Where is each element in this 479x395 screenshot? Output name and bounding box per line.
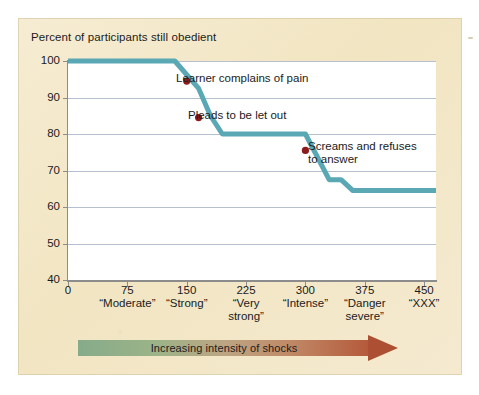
plot-area	[68, 61, 436, 280]
chart-figure: Percent of participants still obedient 4…	[0, 0, 479, 395]
y-tick-mark	[63, 280, 68, 281]
arrow-label: Increasing intensity of shocks	[78, 340, 370, 356]
y-tick-label: 100	[32, 54, 60, 66]
stray-mark	[468, 37, 473, 39]
annotation-label: Learner complains of pain	[176, 72, 308, 85]
y-tick-label: 70	[32, 164, 60, 176]
annotation-label: Pleads to be let out	[188, 109, 286, 122]
x-axis-line	[67, 280, 437, 282]
y-tick-label: 80	[32, 127, 60, 139]
x-tick-group: 450“XXX”	[376, 284, 472, 310]
annotation-label: Screams and refuses to answer	[308, 140, 417, 166]
intensity-arrow: Increasing intensity of shocks	[78, 335, 418, 361]
arrow-head-icon	[368, 335, 398, 361]
x-tick-value: 450	[376, 284, 472, 297]
x-tick-name: “XXX”	[376, 297, 472, 310]
y-tick-label: 90	[32, 91, 60, 103]
y-tick-label: 50	[32, 237, 60, 249]
chart-title: Percent of participants still obedient	[31, 31, 216, 43]
data-line-svg	[68, 61, 436, 280]
y-tick-label: 60	[32, 200, 60, 212]
